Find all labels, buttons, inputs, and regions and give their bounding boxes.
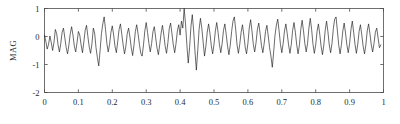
x-axis-ticks (45, 9, 384, 93)
x-tick-label: 0.8 (310, 97, 321, 107)
y-tick-label: -1 (32, 60, 39, 70)
plot-border (45, 9, 384, 93)
x-tick-label: 0.6 (243, 97, 254, 107)
x-axis-tick-labels: 00.10.20.30.40.50.60.70.80.91 (42, 97, 385, 107)
data-series-group (45, 9, 381, 71)
x-tick-label: 0 (42, 97, 46, 107)
y-axis-tick-labels: 10-1-2 (32, 4, 39, 98)
x-tick-label: 0.4 (175, 97, 186, 107)
axis-frame (45, 9, 384, 93)
x-tick-label: 0.3 (141, 97, 152, 107)
x-tick-label: 0.7 (276, 97, 287, 107)
x-tick-label: 0.5 (209, 97, 220, 107)
chart-figure: 00.10.20.30.40.50.60.70.80.91 10-1-2 MAG (0, 0, 400, 124)
y-tick-label: 1 (35, 4, 39, 14)
chart-plot-area: 00.10.20.30.40.50.60.70.80.91 10-1-2 MAG (0, 0, 400, 124)
y-axis-ticks (45, 9, 384, 93)
x-tick-label: 0.9 (344, 97, 355, 107)
y-tick-label: -2 (32, 88, 39, 98)
y-tick-label: 0 (35, 32, 39, 42)
y-axis-title-label: MAG (8, 40, 18, 61)
x-tick-label: 0.1 (73, 97, 84, 107)
x-tick-label: 0.2 (107, 97, 118, 107)
series-line-mag (45, 9, 381, 71)
x-tick-label: 1 (381, 97, 385, 107)
y-axis-title: MAG (8, 40, 18, 61)
